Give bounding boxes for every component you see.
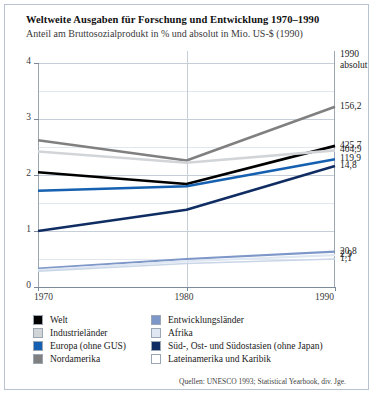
series-line xyxy=(38,107,335,161)
chart-title: Weltweite Ausgaben für Forschung und Ent… xyxy=(26,13,356,26)
legend-item[interactable]: Europa (ohne GUS) xyxy=(33,339,151,352)
series-value-label: 14,8 xyxy=(340,160,357,170)
legend-item-label: Welt xyxy=(50,315,68,325)
legend-swatch-icon xyxy=(151,341,161,351)
chart-legend: WeltEntwicklungsländerIndustrieländerAfr… xyxy=(33,313,353,365)
series-lines xyxy=(38,63,335,287)
legend-item[interactable]: Entwicklungsländer xyxy=(151,313,353,326)
legend-item-label: Nordamerika xyxy=(50,354,100,364)
legend-item-label: Lateinamerika und Karibik xyxy=(168,354,271,364)
legend-item[interactable]: Süd-, Ost- und Südostasien (ohne Japan) xyxy=(151,339,353,352)
x-tick-mark xyxy=(335,287,336,291)
y-tick-label: 3 xyxy=(26,112,31,122)
legend-item[interactable]: Lateinamerika und Karibik xyxy=(151,352,353,365)
chart-subtitle: Anteil am Bruttosozialprodukt in % und a… xyxy=(26,27,356,40)
x-tick-mark xyxy=(38,287,39,291)
legend-item[interactable]: Welt xyxy=(33,313,151,326)
x-tick-mark xyxy=(187,287,188,291)
x-tick-label: 1990 xyxy=(315,292,334,302)
series-value-label: 156,2 xyxy=(340,101,361,111)
legend-item-label: Afrika xyxy=(168,328,193,338)
legend-swatch-icon xyxy=(151,328,161,338)
legend-item[interactable]: Industrieländer xyxy=(33,326,151,339)
value-column-header: 1990 absolut xyxy=(340,49,367,71)
value-column-header-unit: absolut xyxy=(340,60,367,71)
legend-item-label: Industrieländer xyxy=(50,328,108,338)
y-tick-label: 2 xyxy=(26,168,31,178)
y-tick-label: 4 xyxy=(26,56,31,66)
value-column-header-year: 1990 xyxy=(340,49,367,60)
legend-item-label: Entwicklungsländer xyxy=(168,315,244,325)
series-value-label: 1,1 xyxy=(340,253,352,263)
legend-swatch-icon xyxy=(151,315,161,325)
plot-area: 1990 absolut 01234 197019801990 156,2425… xyxy=(38,63,335,287)
legend-swatch-icon xyxy=(151,354,161,364)
legend-swatch-icon xyxy=(33,354,43,364)
legend-item-label: Süd-, Ost- und Südostasien (ohne Japan) xyxy=(168,341,323,351)
chart-header: Weltweite Ausgaben für Forschung und Ent… xyxy=(26,13,356,40)
legend-swatch-icon xyxy=(33,341,43,351)
legend-swatch-icon xyxy=(33,328,43,338)
x-tick-label: 1980 xyxy=(175,292,194,302)
y-tick-label: 0 xyxy=(26,280,31,290)
source-note: Quellen: UNESCO 1993; Statistical Yearbo… xyxy=(179,377,346,386)
legend-item[interactable]: Nordamerika xyxy=(33,352,151,365)
x-tick-label: 1970 xyxy=(34,292,53,302)
y-tick-label: 1 xyxy=(26,224,31,234)
legend-item[interactable]: Afrika xyxy=(151,326,353,339)
series-line xyxy=(38,255,335,270)
chart-frame: Weltweite Ausgaben für Forschung und Ent… xyxy=(4,4,369,390)
legend-swatch-icon xyxy=(33,315,43,325)
legend-item-label: Europa (ohne GUS) xyxy=(50,341,126,351)
